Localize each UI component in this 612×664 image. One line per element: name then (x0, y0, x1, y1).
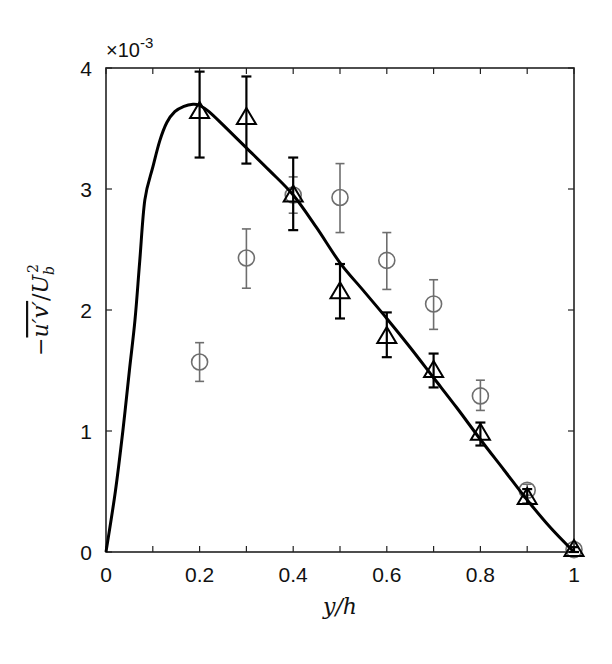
x-axis-title: y/h (322, 594, 357, 619)
x-tick-label: 0 (100, 563, 112, 586)
x-tick-label: 0.4 (279, 563, 309, 586)
y-tick-label: 1 (80, 420, 92, 443)
x-tick-label: 0.2 (185, 563, 214, 586)
y-tick-label: 2 (80, 299, 92, 322)
x-tick-label: 0.6 (372, 563, 401, 586)
series-circles (192, 164, 582, 558)
axis-ticks: 00.20.40.60.8101234 (80, 57, 580, 586)
svg-text:−u′v′/Ub2: −u′v′/Ub2 (25, 264, 57, 356)
y-tick-label: 3 (80, 178, 92, 201)
y-tick-label: 0 (80, 541, 92, 564)
x-tick-label: 1 (568, 563, 580, 586)
series-layer (106, 72, 584, 558)
axis-labels: ×10-3 y/h −u′v′/Ub2 (25, 34, 357, 619)
chart: 00.20.40.60.8101234 ×10-3 y/h −u′v′/Ub2 (0, 0, 612, 664)
x-tick-label: 0.8 (466, 563, 495, 586)
y-multiplier-label: ×10-3 (106, 34, 153, 61)
y-tick-label: 4 (80, 57, 92, 80)
y-axis-title: −u′v′/Ub2 (25, 264, 57, 356)
